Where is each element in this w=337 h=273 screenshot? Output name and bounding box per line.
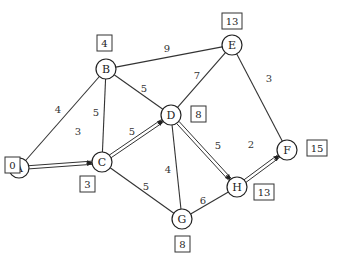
node-label: B [102,63,110,76]
edge-DE [178,53,226,108]
node-F: F [277,140,297,160]
edge-weight-DH: 5 [215,140,221,151]
distance-box-E: 13 [222,13,242,29]
edge-weight-GH: 6 [200,195,206,206]
node-label: C [98,156,106,169]
node-label: F [283,144,291,157]
edge-weight-DE: 7 [194,70,200,81]
edge-AB [26,77,100,161]
edge-GH [191,192,229,214]
edge-DG [172,125,181,209]
distance-box-D: 8 [191,106,206,122]
shortest-path-edge-DH [177,121,232,180]
edge-BC [102,79,105,152]
edge-weight-CD: 5 [129,126,135,137]
edge-weight-DG: 4 [165,164,171,175]
node-label: H [232,181,242,194]
node-C: C [92,152,112,172]
distance-box-G: 8 [175,236,190,252]
shortest-path-edge-CD [109,119,163,157]
distance-value: 13 [226,16,239,27]
edge-weight-EF: 3 [266,73,272,84]
distance-box-F: 15 [307,140,327,156]
node-label: E [228,39,236,52]
graph-diagram: 4355955745362 ABCDEFGH 04381315813 [0,0,337,273]
distance-value: 4 [101,38,107,49]
distance-box-C: 3 [80,176,95,192]
edge-weight-BE: 9 [164,43,170,54]
edge-EF [237,54,283,141]
edge-weight-AC: 3 [75,126,81,137]
edge-weight-HF: 2 [248,139,254,150]
node-D: D [161,105,181,125]
edge-weight-CG: 5 [143,181,149,192]
shortest-path-edge-HF [244,155,280,183]
distance-value: 13 [258,187,271,198]
distance-box-B: 4 [97,35,112,51]
edge-weight-BC: 5 [93,107,99,118]
node-label: G [178,213,187,226]
edge-weight-AB: 4 [55,104,61,115]
node-G: G [172,209,192,229]
distance-value: 8 [195,109,201,120]
node-label: D [167,109,176,122]
node-H: H [227,177,247,197]
distance-value: 8 [179,239,185,250]
node-B: B [96,59,116,79]
distance-box-H: 13 [254,184,274,200]
distance-box-A: 0 [5,157,20,173]
distance-value: 15 [311,143,324,154]
shortest-path-edge-AC [29,161,92,169]
edge-weight-BD: 5 [141,83,147,94]
edge-BD [114,75,163,109]
distance-value: 3 [84,179,90,190]
distance-value: 0 [9,160,15,171]
node-E: E [222,35,242,55]
